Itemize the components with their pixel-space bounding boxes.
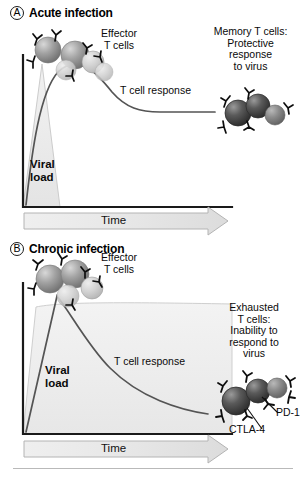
memory-t-cells-label-a: Memory T cells: Protective response to v… (198, 26, 303, 72)
time-axis-label-a: Time (101, 214, 126, 226)
pd1-label: PD-1 (276, 407, 300, 419)
effector-t-cells-label-a: Effector T cells (84, 28, 154, 51)
panel-chronic-infection: B Chronic infection (0, 236, 306, 480)
viral-load-label-a: Viral load (30, 158, 55, 183)
bottom-divider-rule (13, 468, 293, 469)
effector-t-cells-label-b: Effector T cells (84, 252, 154, 275)
figure-root: A Acute infection (0, 0, 306, 480)
ctla4-label: CTLA-4 (229, 424, 265, 436)
memory-t-cell-cluster-a (218, 88, 293, 133)
time-axis-label-b: Time (101, 442, 126, 454)
panel-acute-infection: A Acute infection (0, 0, 306, 236)
t-cell-response-label-a: T cell response (120, 85, 191, 97)
viral-load-label-b: Viral load (45, 364, 70, 389)
exhausted-t-cells-label-b: Exhausted T cells: Inability to respond … (206, 302, 302, 360)
t-cell-response-label-b: T cell response (114, 356, 185, 368)
